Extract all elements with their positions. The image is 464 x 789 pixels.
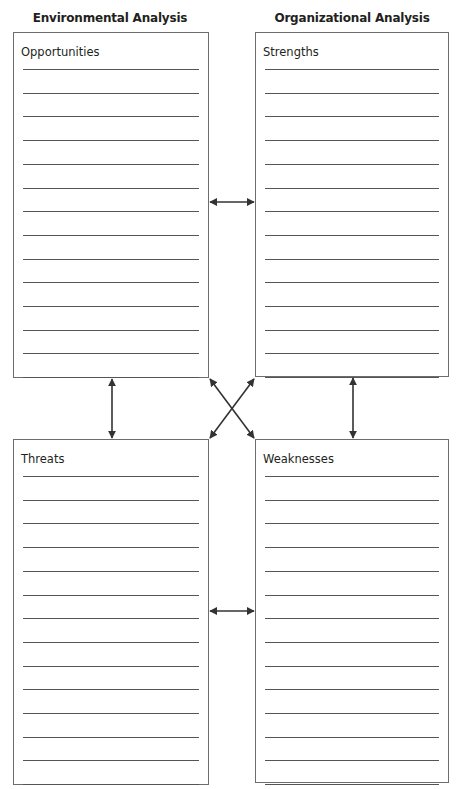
writing-line[interactable] bbox=[265, 571, 439, 572]
writing-line[interactable] bbox=[23, 188, 199, 189]
writing-line[interactable] bbox=[23, 547, 199, 548]
writing-line[interactable] bbox=[23, 259, 199, 260]
weaknesses-box: Weaknesses bbox=[255, 439, 449, 783]
writing-line[interactable] bbox=[23, 377, 199, 378]
writing-line[interactable] bbox=[23, 235, 199, 236]
writing-line[interactable] bbox=[265, 69, 439, 70]
strengths-box: Strengths bbox=[255, 32, 449, 377]
writing-line[interactable] bbox=[265, 760, 439, 761]
writing-line[interactable] bbox=[265, 784, 439, 785]
writing-line[interactable] bbox=[265, 713, 439, 714]
writing-line[interactable] bbox=[23, 69, 199, 70]
threats-box: Threats bbox=[13, 439, 209, 785]
writing-line[interactable] bbox=[23, 666, 199, 667]
writing-line[interactable] bbox=[265, 140, 439, 141]
writing-line[interactable] bbox=[265, 666, 439, 667]
writing-line[interactable] bbox=[265, 353, 439, 354]
arrow-opportunities-weaknesses bbox=[210, 379, 254, 438]
writing-line[interactable] bbox=[23, 211, 199, 212]
writing-line[interactable] bbox=[23, 737, 199, 738]
writing-line[interactable] bbox=[265, 618, 439, 619]
writing-line[interactable] bbox=[23, 164, 199, 165]
opportunities-title: Opportunities bbox=[21, 45, 99, 59]
writing-line[interactable] bbox=[23, 784, 199, 785]
writing-line[interactable] bbox=[23, 618, 199, 619]
organizational-analysis-heading: Organizational Analysis bbox=[262, 11, 442, 25]
writing-line[interactable] bbox=[23, 713, 199, 714]
writing-line[interactable] bbox=[265, 282, 439, 283]
writing-line[interactable] bbox=[265, 259, 439, 260]
writing-line[interactable] bbox=[23, 330, 199, 331]
writing-line[interactable] bbox=[23, 476, 199, 477]
writing-line[interactable] bbox=[265, 188, 439, 189]
writing-line[interactable] bbox=[23, 306, 199, 307]
writing-line[interactable] bbox=[265, 523, 439, 524]
weaknesses-title: Weaknesses bbox=[263, 452, 334, 466]
writing-line[interactable] bbox=[265, 737, 439, 738]
writing-line[interactable] bbox=[23, 642, 199, 643]
writing-line[interactable] bbox=[265, 595, 439, 596]
writing-line[interactable] bbox=[23, 93, 199, 94]
writing-line[interactable] bbox=[265, 116, 439, 117]
writing-line[interactable] bbox=[265, 642, 439, 643]
writing-line[interactable] bbox=[23, 523, 199, 524]
writing-line[interactable] bbox=[265, 377, 439, 378]
writing-line[interactable] bbox=[265, 306, 439, 307]
writing-line[interactable] bbox=[265, 476, 439, 477]
writing-line[interactable] bbox=[23, 282, 199, 283]
writing-line[interactable] bbox=[265, 164, 439, 165]
writing-line[interactable] bbox=[265, 235, 439, 236]
arrow-strengths-threats bbox=[210, 379, 254, 438]
strengths-title: Strengths bbox=[263, 45, 319, 59]
opportunities-box: Opportunities bbox=[13, 32, 209, 378]
writing-line[interactable] bbox=[265, 689, 439, 690]
writing-line[interactable] bbox=[23, 500, 199, 501]
writing-line[interactable] bbox=[265, 211, 439, 212]
writing-line[interactable] bbox=[265, 500, 439, 501]
threats-title: Threats bbox=[21, 452, 64, 466]
writing-line[interactable] bbox=[23, 116, 199, 117]
writing-line[interactable] bbox=[23, 689, 199, 690]
writing-line[interactable] bbox=[265, 547, 439, 548]
writing-line[interactable] bbox=[23, 760, 199, 761]
writing-line[interactable] bbox=[23, 571, 199, 572]
writing-line[interactable] bbox=[23, 353, 199, 354]
writing-line[interactable] bbox=[23, 140, 199, 141]
writing-line[interactable] bbox=[265, 93, 439, 94]
environmental-analysis-heading: Environmental Analysis bbox=[20, 11, 200, 25]
writing-line[interactable] bbox=[265, 330, 439, 331]
writing-line[interactable] bbox=[23, 595, 199, 596]
